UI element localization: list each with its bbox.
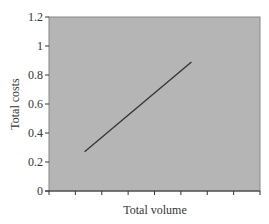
y-axis: 00.20.40.60.811.2 xyxy=(28,10,49,198)
y-axis-title: Total costs xyxy=(8,78,22,130)
y-tick-label: 0.6 xyxy=(28,97,43,111)
plot-area xyxy=(49,17,260,191)
x-axis xyxy=(45,191,260,195)
y-tick-label: 0.4 xyxy=(28,126,43,140)
y-tick-label: 1 xyxy=(37,39,43,53)
y-tick-label: 0.8 xyxy=(28,68,43,82)
y-tick-label: 0 xyxy=(37,184,43,198)
y-tick-label: 1.2 xyxy=(28,10,43,24)
x-axis-title: Total volume xyxy=(123,203,186,217)
y-tick-label: 0.2 xyxy=(28,155,43,169)
chart: 00.20.40.60.811.2 Total costs Total volu… xyxy=(0,0,269,224)
